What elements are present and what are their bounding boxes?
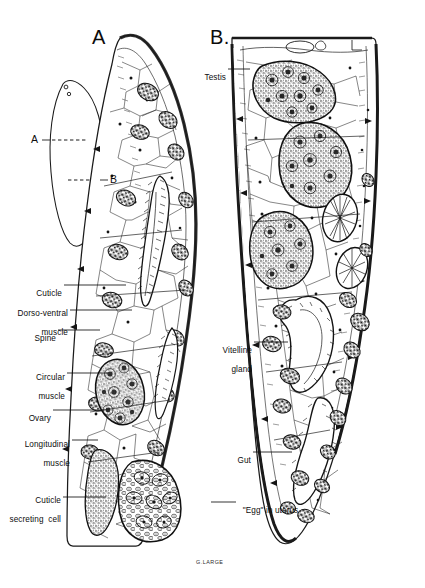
label-cuticle-secreting-cell: Cuticle secreting cell	[0, 487, 61, 525]
label-vitelline-gland-line-2: gland	[231, 365, 252, 374]
label-gut-line-1: Gut	[238, 456, 252, 465]
label-circular-muscle: Circular muscle	[0, 364, 65, 402]
label-cuticle: Cuticle	[0, 280, 62, 299]
inset-section-label-b: B	[110, 173, 117, 185]
label-ovary: Ovary	[0, 405, 51, 424]
label-longitudinal-muscle-line-2: muscle	[43, 459, 70, 468]
label-vitelline-gland-line-1: Vitelline	[223, 346, 252, 355]
label-longitudinal-muscle: Longitudinal muscle	[0, 431, 70, 469]
label-cuticle-secreting-cell-line-2: secreting cell	[9, 515, 61, 524]
label-spine: Spine	[0, 325, 56, 344]
label-testis-line-1: Testis	[204, 73, 226, 82]
label-gut: Gut	[210, 447, 251, 466]
label-circular-muscle-line-2: muscle	[38, 392, 65, 401]
label-vitelline-gland: Vitelline gland	[196, 337, 252, 375]
artist-signature: G.LARGE	[196, 559, 223, 565]
label-longitudinal-muscle-line-1: Longitudinal	[25, 440, 70, 449]
testis-lower	[250, 212, 313, 289]
label-circular-muscle-line-1: Circular	[36, 373, 65, 382]
label-spine-line-1: Spine	[35, 334, 56, 343]
label-egg-in-uterus: "Egg" in uterus	[238, 497, 328, 516]
inset-section-label-a: A	[31, 133, 38, 145]
label-dorso-ventral-muscle-line-1: Dorso-ventral	[18, 309, 68, 318]
label-testis: Testis	[186, 64, 226, 83]
label-cuticle-line-1: Cuticle	[36, 289, 62, 298]
figure-plate	[0, 0, 425, 588]
label-egg-in-uterus-line-1: "Egg" in uterus	[243, 506, 299, 515]
label-ovary-line-1: Ovary	[29, 414, 51, 423]
panel-letter-a: A	[92, 26, 106, 49]
panel-letter-b: B.	[210, 26, 230, 49]
label-cuticle-secreting-cell-line-1: Cuticle	[35, 496, 61, 505]
